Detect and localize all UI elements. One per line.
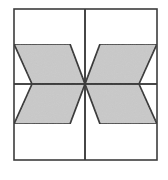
figure-container — [0, 0, 168, 180]
geometry-figure — [0, 0, 168, 180]
